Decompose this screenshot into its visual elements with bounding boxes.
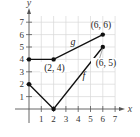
svg-text:2: 2 (51, 114, 56, 124)
y-axis-label: y (26, 0, 32, 8)
svg-text:3: 3 (20, 67, 25, 77)
y-axis-arrow-icon (27, 8, 31, 14)
x-tick-labels: 1 2 3 4 5 6 7 (39, 114, 118, 124)
svg-text:7: 7 (20, 17, 25, 27)
label-point-6-6: (6, 6) (91, 20, 112, 31)
svg-text:2: 2 (20, 79, 25, 89)
x-axis-arrow-icon (119, 107, 125, 111)
svg-text:5: 5 (88, 114, 93, 124)
svg-text:4: 4 (20, 54, 25, 64)
chart: 1 2 3 4 5 6 7 1 2 3 4 5 6 7 x y (2, 4) (… (0, 0, 140, 137)
x-axis-label: x (127, 103, 133, 114)
y-tick-labels: 1 2 3 4 5 6 7 (20, 17, 25, 101)
svg-text:4: 4 (76, 114, 81, 124)
label-point-2-4: (2, 4) (44, 63, 65, 74)
svg-text:3: 3 (64, 114, 69, 124)
svg-text:1: 1 (20, 92, 25, 102)
svg-text:6: 6 (20, 30, 25, 40)
svg-text:7: 7 (113, 114, 118, 124)
label-point-6-5: (6, 5) (96, 58, 117, 69)
label-g: g (71, 36, 76, 47)
svg-text:5: 5 (20, 42, 25, 52)
svg-text:6: 6 (101, 114, 106, 124)
svg-text:1: 1 (39, 114, 44, 124)
